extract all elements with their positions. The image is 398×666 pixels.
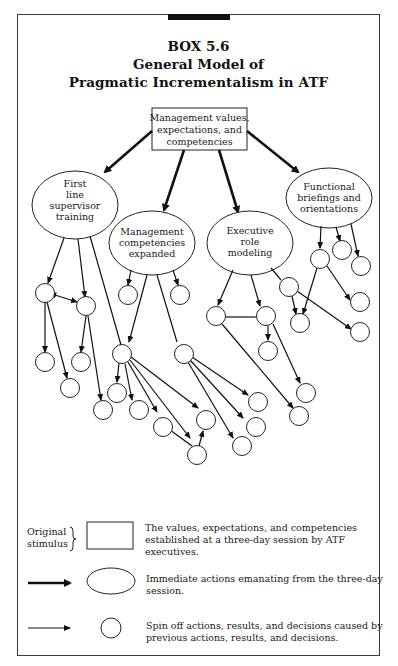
legend-brace-icon (70, 527, 76, 551)
legend-ellipse-icon (87, 568, 135, 594)
svg-text:expanded: expanded (129, 248, 176, 259)
svg-text:line: line (66, 189, 84, 200)
legend-circle-icon (101, 618, 121, 638)
immediate-action-first-line-supervisor-training: First line supervisor training (32, 171, 118, 239)
svg-text:Functional: Functional (303, 181, 355, 192)
svg-text:role: role (241, 236, 260, 247)
immediate-action-executive-role-modeling: Executive role modeling (207, 211, 293, 275)
legend-immediate-description: Immediate actions emanating from the thr… (146, 573, 383, 597)
root-line-1: Management values, (149, 112, 249, 123)
legend-rectangle-icon (87, 522, 133, 549)
svg-text:briefings and: briefings and (297, 192, 361, 203)
root-line-3: competencies (166, 136, 232, 147)
legend-stimulus-description: The values, expectations, and competenci… (145, 522, 398, 558)
svg-text:supervisor: supervisor (50, 200, 101, 211)
svg-text:Management: Management (120, 226, 184, 237)
root-stimulus-box: Management values, expectations, and com… (149, 108, 249, 150)
legend-stimulus-label: Original stimulus (27, 526, 68, 550)
spin-off-nodes (36, 241, 371, 465)
svg-text:Executive: Executive (226, 225, 274, 236)
legend-spinoff-description: Spin off actions, results, and decisions… (146, 620, 383, 644)
svg-text:First: First (64, 178, 87, 189)
pragmatic-incrementalism-diagram: Management values, expectations, and com… (0, 0, 398, 666)
immediate-action-management-competencies-expanded: Management competencies expanded (109, 211, 195, 275)
root-line-2: expectations, and (157, 124, 242, 135)
svg-text:orientations: orientations (300, 203, 358, 214)
svg-text:modeling: modeling (228, 247, 273, 258)
svg-text:competencies: competencies (119, 237, 185, 248)
svg-text:training: training (56, 211, 94, 222)
immediate-action-functional-briefings-and-orientations: Functional briefings and orientations (286, 168, 372, 228)
